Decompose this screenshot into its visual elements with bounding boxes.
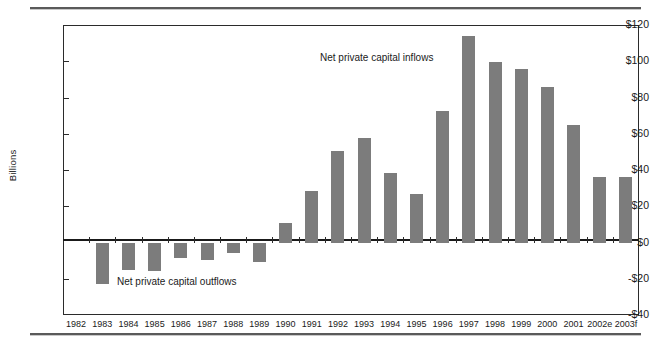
bottom-divider-rule (30, 333, 641, 335)
y-tick-mark (63, 279, 69, 280)
y-axis-title: Billions (7, 136, 18, 196)
bar-1983 (96, 243, 109, 285)
bar-1993 (358, 138, 371, 242)
annotation-net-private-capital-outflows: Net private capital outflows (117, 276, 237, 287)
y-tick-mark (63, 170, 69, 171)
annotation-net-private-capital-inflows: Net private capital inflows (320, 52, 433, 63)
x-tick-mark (377, 237, 378, 243)
x-tick-mark (508, 237, 509, 243)
x-tick-mark (456, 237, 457, 243)
y-tick-mark (63, 61, 69, 62)
x-tick-mark (246, 237, 247, 243)
y-tick-label: -$20 (593, 273, 649, 284)
x-tick-mark (482, 237, 483, 243)
bar-1997 (462, 36, 475, 243)
bar-1999 (515, 69, 528, 242)
y-tick-mark (63, 206, 69, 207)
x-tick-mark (142, 237, 143, 243)
x-tick-mark (299, 237, 300, 243)
y-tick-label: -$40 (593, 309, 649, 320)
bar-1990 (279, 223, 292, 243)
bar-1991 (305, 191, 318, 243)
x-tick-mark (194, 237, 195, 243)
bar-1994 (384, 173, 397, 243)
top-divider-rule (30, 7, 641, 9)
x-tick-mark (115, 237, 116, 243)
x-tick-mark (272, 237, 273, 243)
bar-1988 (227, 243, 240, 254)
bar-1984 (122, 243, 135, 270)
x-tick-mark (534, 237, 535, 243)
y-tick-mark (63, 134, 69, 135)
bar-1992 (331, 151, 344, 243)
y-tick-label: $100 (593, 55, 649, 66)
bar-2000 (541, 87, 554, 243)
bar-1995 (410, 194, 423, 243)
x-tick-mark (89, 237, 90, 243)
y-tick-label: $120 (593, 19, 649, 30)
x-tick-mark (560, 237, 561, 243)
bar-2002e (593, 177, 606, 242)
x-tick-mark (351, 237, 352, 243)
x-tick-mark (430, 237, 431, 243)
x-tick-mark (325, 237, 326, 243)
y-tick-mark (63, 98, 69, 99)
bar-1996 (436, 111, 449, 242)
bar-1989 (253, 243, 266, 262)
bar-2003f (619, 177, 632, 242)
bar-1998 (489, 62, 502, 242)
bar-1985 (148, 243, 161, 271)
y-tick-label: $80 (593, 92, 649, 103)
x-tick-mark (220, 237, 221, 243)
bar-1987 (201, 243, 214, 260)
bar-2001 (567, 125, 580, 243)
x-tick-mark (613, 237, 614, 243)
x-tick-label: 2003f (602, 320, 650, 329)
y-tick-label: $60 (593, 128, 649, 139)
x-tick-mark (587, 237, 588, 243)
x-tick-mark (403, 237, 404, 243)
x-tick-mark (168, 237, 169, 243)
bar-1986 (174, 243, 187, 258)
y-tick-label: $40 (593, 164, 649, 175)
